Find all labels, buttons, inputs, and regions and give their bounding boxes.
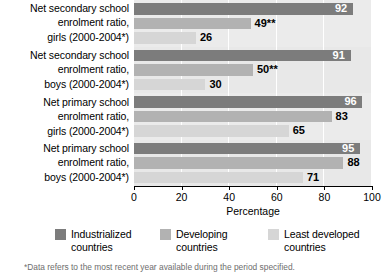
plot-area: 9249**269150**30968365958871 — [134, 0, 372, 186]
bar-value-label: 91 — [333, 50, 345, 61]
bar-value-label: 50** — [257, 64, 278, 75]
legend-swatch — [160, 229, 171, 240]
legend-swatch — [55, 229, 66, 240]
legend-item: Industrialized countries — [55, 228, 131, 253]
bar — [134, 3, 353, 15]
bar — [134, 50, 351, 62]
legend-label: Industrialized countries — [71, 228, 131, 253]
x-axis-tick — [277, 187, 278, 190]
category-label-line: Net primary school — [0, 95, 129, 109]
bar-value-label: 26 — [200, 32, 212, 43]
legend-item: Least developed countries — [268, 228, 360, 253]
x-axis-tick-label: 40 — [223, 191, 235, 203]
category-label-line: boys (2000-2004*) — [0, 170, 129, 184]
legend-label: Least developed countries — [284, 228, 360, 253]
bar-value-label: 71 — [307, 172, 319, 183]
bar — [134, 96, 362, 108]
x-axis-tick — [372, 187, 373, 190]
bar-value-label: 65 — [293, 125, 305, 136]
plot-area-wrapper: Net secondary school enrolment ratio, gi… — [0, 0, 388, 190]
category-label-line: Net primary school — [0, 141, 129, 155]
bar-value-label: 92 — [335, 3, 347, 14]
legend-label: Developing countries — [176, 228, 228, 253]
bar-value-label: 96 — [344, 96, 356, 107]
chart-legend: Industrialized countriesDeveloping count… — [0, 228, 388, 258]
bar-value-label: 30 — [209, 79, 221, 90]
category-label-3: Net primary school enrolment ratio, boys… — [0, 141, 129, 184]
bar — [134, 32, 196, 44]
category-label-line: Net secondary school — [0, 48, 129, 62]
category-label-1: Net secondary school enrolment ratio, bo… — [0, 48, 129, 91]
x-axis-tick — [229, 187, 230, 190]
x-axis-tick-label: 0 — [131, 191, 137, 203]
x-axis-tick-label: 100 — [363, 191, 381, 203]
x-axis-tick-label: 20 — [176, 191, 188, 203]
bar-value-label: 88 — [347, 157, 359, 168]
bar — [134, 157, 343, 169]
legend-swatch — [268, 229, 279, 240]
category-label-line: girls (2000-2004*) — [0, 30, 129, 44]
category-label-line: enrolment ratio, — [0, 109, 129, 123]
category-axis-labels: Net secondary school enrolment ratio, gi… — [0, 0, 131, 190]
x-axis-tick — [324, 187, 325, 190]
category-label-line: boys (2000-2004*) — [0, 77, 129, 91]
bar-value-label: 49** — [255, 18, 276, 29]
x-axis-line — [134, 186, 373, 187]
bar-value-label: 95 — [342, 143, 354, 154]
category-label-0: Net secondary school enrolment ratio, gi… — [0, 1, 129, 44]
category-label-line: enrolment ratio, — [0, 155, 129, 169]
bar — [134, 18, 251, 30]
x-axis-tick-label: 60 — [271, 191, 283, 203]
x-axis-tick-label: 80 — [319, 191, 331, 203]
bar — [134, 172, 303, 184]
category-label-line: enrolment ratio, — [0, 62, 129, 76]
bar — [134, 79, 205, 91]
bar — [134, 64, 253, 76]
legend-item: Developing countries — [160, 228, 228, 253]
x-axis-title: Percentage — [134, 205, 372, 217]
gridline — [371, 0, 372, 186]
category-label-line: girls (2000-2004*) — [0, 124, 129, 138]
category-label-line: enrolment ratio, — [0, 15, 129, 29]
x-axis-tick — [134, 187, 135, 190]
bar — [134, 111, 332, 123]
bar-value-label: 83 — [336, 111, 348, 122]
footnote: *Data refers to the most recent year ava… — [24, 262, 384, 272]
bar — [134, 143, 360, 155]
bar — [134, 125, 289, 137]
x-axis-tick — [182, 187, 183, 190]
category-label-line: Net secondary school — [0, 1, 129, 15]
category-label-2: Net primary school enrolment ratio, girl… — [0, 95, 129, 138]
